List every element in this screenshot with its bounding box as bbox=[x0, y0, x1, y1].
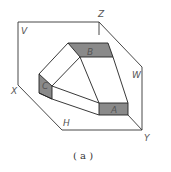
label-a: A bbox=[110, 105, 117, 115]
label-c: C bbox=[42, 81, 49, 91]
y-axis-line bbox=[128, 115, 142, 130]
caption: ( a ) bbox=[73, 150, 93, 161]
projection-diagram: V Z W X H Y B A C ( a ) bbox=[0, 0, 171, 172]
label-v: V bbox=[21, 26, 28, 36]
label-w: W bbox=[132, 70, 142, 80]
label-z: Z bbox=[97, 9, 105, 19]
label-x: X bbox=[10, 86, 18, 96]
diagram-svg: V Z W X H Y B A C ( a ) bbox=[0, 0, 171, 172]
label-b: B bbox=[87, 47, 93, 57]
label-h: H bbox=[63, 118, 70, 128]
label-y: Y bbox=[144, 133, 151, 143]
